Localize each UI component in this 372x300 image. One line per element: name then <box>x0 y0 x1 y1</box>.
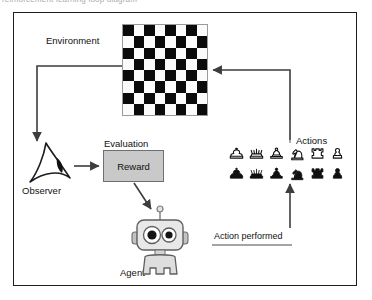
diagram-canvas: reinforcement learning loop diagram <box>0 0 372 300</box>
robot-icon <box>0 0 372 300</box>
